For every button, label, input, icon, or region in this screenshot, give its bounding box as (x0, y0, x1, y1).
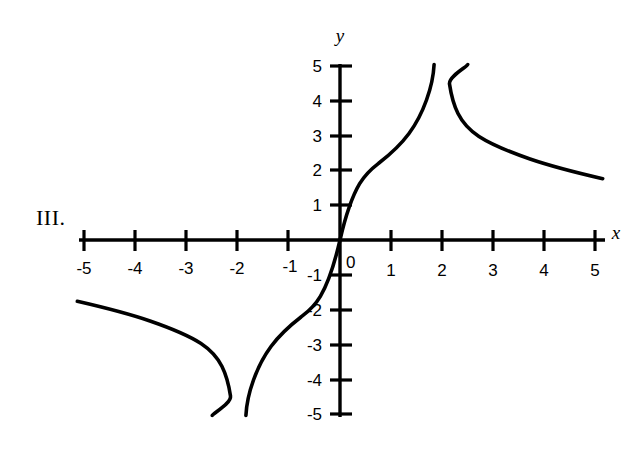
y-tick-label: 1 (313, 196, 322, 215)
x-tick-label: -5 (76, 259, 91, 278)
y-axis-label: y (334, 25, 345, 46)
x-tick-label: 3 (488, 261, 497, 280)
x-axis-label: x (611, 222, 621, 243)
y-tick-label: 4 (313, 92, 322, 111)
x-tick-label: 5 (590, 261, 599, 280)
y-tick-label: 3 (313, 127, 322, 146)
y-tick-label: -1 (307, 266, 322, 285)
curve-branch-lower-left (77, 301, 230, 415)
x-tick-label: -1 (282, 257, 297, 276)
coordinate-plane-graph: -5 -4 -3 -2 -1 1 2 3 4 5 5 4 3 2 1 -1 -2… (0, 0, 644, 455)
x-tick-label: -2 (229, 259, 244, 278)
x-tick-label: -3 (178, 259, 193, 278)
origin-label: 0 (346, 253, 355, 272)
x-tick-label: 1 (386, 261, 395, 280)
x-tick-label: 2 (437, 261, 446, 280)
y-tick-label: 2 (313, 161, 322, 180)
y-tick-label: -3 (307, 336, 322, 355)
x-tick-label: 4 (539, 261, 548, 280)
figure-container: III. (0, 0, 644, 455)
curve-branch-upper-right (449, 65, 602, 179)
y-tick-label: -5 (307, 405, 322, 424)
x-tick-label: -4 (127, 259, 142, 278)
y-tick-label: 5 (313, 57, 322, 76)
y-tick-label: -4 (307, 371, 322, 390)
axis-lines (79, 64, 605, 417)
